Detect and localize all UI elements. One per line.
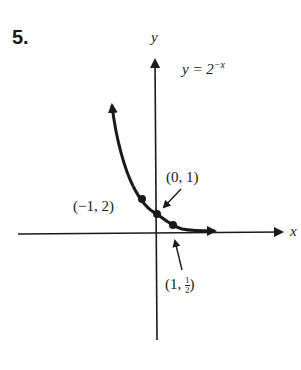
point-label-1-half: (1, 12) bbox=[165, 276, 195, 295]
y-axis-label: y bbox=[151, 30, 158, 45]
point-0-1 bbox=[153, 210, 161, 218]
y-axis bbox=[155, 60, 157, 340]
equation-label: y = 2−x bbox=[182, 60, 225, 77]
function-curve bbox=[112, 105, 133, 186]
x-axis-label: x bbox=[290, 224, 297, 239]
graph bbox=[0, 0, 301, 370]
point-label-m1-2: (−1, 2) bbox=[73, 199, 114, 214]
x-axis bbox=[18, 232, 282, 234]
point-m1-2 bbox=[138, 195, 146, 203]
point-label-0-1: (0, 1) bbox=[166, 170, 199, 185]
point-1-half bbox=[169, 221, 177, 229]
